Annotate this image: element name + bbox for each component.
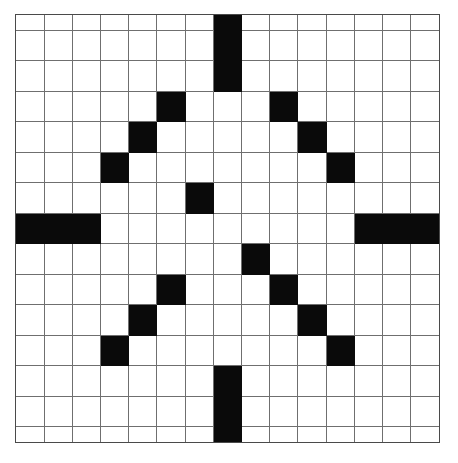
open-cell[interactable] bbox=[101, 427, 129, 442]
open-cell[interactable] bbox=[270, 30, 298, 61]
open-cell[interactable] bbox=[326, 427, 354, 442]
open-cell[interactable] bbox=[354, 274, 382, 305]
open-cell[interactable] bbox=[129, 152, 157, 183]
open-cell[interactable] bbox=[157, 366, 185, 397]
open-cell[interactable] bbox=[129, 274, 157, 305]
open-cell[interactable] bbox=[213, 183, 241, 214]
open-cell[interactable] bbox=[185, 15, 213, 30]
open-cell[interactable] bbox=[72, 244, 100, 275]
open-cell[interactable] bbox=[242, 122, 270, 153]
open-cell[interactable] bbox=[44, 122, 72, 153]
open-cell[interactable] bbox=[411, 183, 439, 214]
open-cell[interactable] bbox=[298, 30, 326, 61]
open-cell[interactable] bbox=[72, 396, 100, 427]
open-cell[interactable] bbox=[101, 15, 129, 30]
open-cell[interactable] bbox=[382, 15, 410, 30]
open-cell[interactable] bbox=[326, 244, 354, 275]
open-cell[interactable] bbox=[16, 335, 44, 366]
open-cell[interactable] bbox=[16, 152, 44, 183]
open-cell[interactable] bbox=[326, 305, 354, 336]
open-cell[interactable] bbox=[72, 122, 100, 153]
open-cell[interactable] bbox=[185, 30, 213, 61]
open-cell[interactable] bbox=[44, 244, 72, 275]
open-cell[interactable] bbox=[382, 61, 410, 92]
open-cell[interactable] bbox=[157, 183, 185, 214]
open-cell[interactable] bbox=[411, 152, 439, 183]
open-cell[interactable] bbox=[44, 305, 72, 336]
open-cell[interactable] bbox=[354, 91, 382, 122]
open-cell[interactable] bbox=[185, 427, 213, 442]
open-cell[interactable] bbox=[298, 244, 326, 275]
open-cell[interactable] bbox=[298, 427, 326, 442]
open-cell[interactable] bbox=[185, 396, 213, 427]
open-cell[interactable] bbox=[382, 335, 410, 366]
open-cell[interactable] bbox=[326, 91, 354, 122]
open-cell[interactable] bbox=[44, 183, 72, 214]
open-cell[interactable] bbox=[411, 335, 439, 366]
open-cell[interactable] bbox=[129, 427, 157, 442]
open-cell[interactable] bbox=[101, 366, 129, 397]
open-cell[interactable] bbox=[382, 366, 410, 397]
open-cell[interactable] bbox=[270, 244, 298, 275]
open-cell[interactable] bbox=[16, 122, 44, 153]
open-cell[interactable] bbox=[326, 396, 354, 427]
open-cell[interactable] bbox=[157, 427, 185, 442]
open-cell[interactable] bbox=[242, 396, 270, 427]
open-cell[interactable] bbox=[213, 244, 241, 275]
open-cell[interactable] bbox=[72, 274, 100, 305]
open-cell[interactable] bbox=[382, 274, 410, 305]
open-cell[interactable] bbox=[298, 274, 326, 305]
open-cell[interactable] bbox=[157, 152, 185, 183]
open-cell[interactable] bbox=[101, 274, 129, 305]
open-cell[interactable] bbox=[44, 152, 72, 183]
open-cell[interactable] bbox=[157, 61, 185, 92]
open-cell[interactable] bbox=[354, 396, 382, 427]
open-cell[interactable] bbox=[354, 30, 382, 61]
open-cell[interactable] bbox=[185, 274, 213, 305]
open-cell[interactable] bbox=[72, 152, 100, 183]
open-cell[interactable] bbox=[157, 396, 185, 427]
open-cell[interactable] bbox=[72, 305, 100, 336]
open-cell[interactable] bbox=[326, 30, 354, 61]
open-cell[interactable] bbox=[16, 396, 44, 427]
open-cell[interactable] bbox=[242, 30, 270, 61]
open-cell[interactable] bbox=[242, 427, 270, 442]
open-cell[interactable] bbox=[129, 396, 157, 427]
open-cell[interactable] bbox=[326, 61, 354, 92]
open-cell[interactable] bbox=[326, 366, 354, 397]
open-cell[interactable] bbox=[129, 335, 157, 366]
open-cell[interactable] bbox=[354, 183, 382, 214]
open-cell[interactable] bbox=[157, 213, 185, 244]
open-cell[interactable] bbox=[129, 30, 157, 61]
open-cell[interactable] bbox=[72, 61, 100, 92]
open-cell[interactable] bbox=[326, 122, 354, 153]
open-cell[interactable] bbox=[213, 122, 241, 153]
open-cell[interactable] bbox=[242, 335, 270, 366]
open-cell[interactable] bbox=[44, 427, 72, 442]
open-cell[interactable] bbox=[382, 152, 410, 183]
open-cell[interactable] bbox=[411, 366, 439, 397]
open-cell[interactable] bbox=[44, 396, 72, 427]
open-cell[interactable] bbox=[411, 244, 439, 275]
open-cell[interactable] bbox=[213, 213, 241, 244]
open-cell[interactable] bbox=[242, 305, 270, 336]
open-cell[interactable] bbox=[185, 244, 213, 275]
open-cell[interactable] bbox=[242, 91, 270, 122]
open-cell[interactable] bbox=[16, 366, 44, 397]
open-cell[interactable] bbox=[129, 91, 157, 122]
open-cell[interactable] bbox=[270, 183, 298, 214]
open-cell[interactable] bbox=[270, 15, 298, 30]
open-cell[interactable] bbox=[72, 15, 100, 30]
open-cell[interactable] bbox=[354, 335, 382, 366]
open-cell[interactable] bbox=[72, 335, 100, 366]
open-cell[interactable] bbox=[44, 61, 72, 92]
open-cell[interactable] bbox=[16, 183, 44, 214]
open-cell[interactable] bbox=[129, 213, 157, 244]
open-cell[interactable] bbox=[382, 244, 410, 275]
open-cell[interactable] bbox=[16, 61, 44, 92]
open-cell[interactable] bbox=[270, 152, 298, 183]
open-cell[interactable] bbox=[270, 396, 298, 427]
open-cell[interactable] bbox=[298, 91, 326, 122]
open-cell[interactable] bbox=[101, 244, 129, 275]
open-cell[interactable] bbox=[185, 305, 213, 336]
